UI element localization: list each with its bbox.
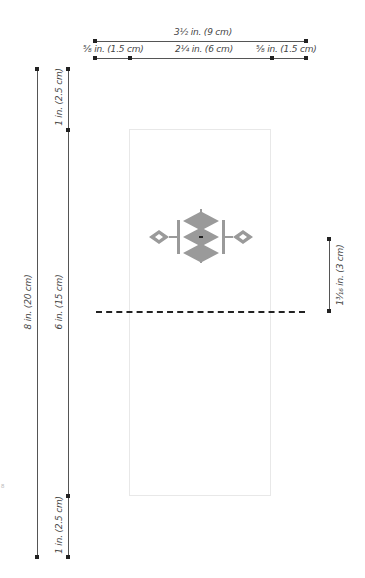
bottom-section-label: 1 in. (2.5 cm) <box>54 495 64 555</box>
motif-offset-line <box>329 239 330 311</box>
total-height-top-point <box>35 67 39 71</box>
total-height-bottom-point <box>35 555 39 559</box>
height-point-2 <box>66 128 70 132</box>
left-margin-label: ⅝ in. (1.5 cm) <box>83 44 144 54</box>
segment-point-3 <box>270 56 274 60</box>
segment-point-2 <box>128 56 132 60</box>
middle-section-label: 6 in. (15 cm) <box>54 272 64 332</box>
segmented-height-line <box>68 69 69 557</box>
height-point-3 <box>66 494 70 498</box>
motif-offset-bottom-point <box>327 309 331 313</box>
segmented-width-line <box>95 58 306 59</box>
total-width-start-point <box>93 39 97 43</box>
total-width-end-point <box>304 39 308 43</box>
fold-line <box>96 311 305 313</box>
total-width-line <box>95 41 306 42</box>
colorwork-motif-icon <box>147 208 255 264</box>
right-margin-label: ⅝ in. (1.5 cm) <box>256 44 317 54</box>
segment-point-4 <box>304 56 308 60</box>
motif-offset-label: 1³⁄₁₆ in. (3 cm) <box>335 240 345 310</box>
segment-point-1 <box>93 56 97 60</box>
total-height-label: 8 in. (20 cm) <box>23 272 33 332</box>
stray-mark: 8 <box>1 483 4 489</box>
center-width-label: 2¼ in. (6 cm) <box>175 44 233 54</box>
total-width-label: 3½ in. (9 cm) <box>174 27 232 37</box>
height-point-1 <box>66 67 70 71</box>
top-section-label: 1 in. (2.5 cm) <box>54 67 64 127</box>
motif-offset-top-point <box>327 237 331 241</box>
total-height-line <box>37 69 38 557</box>
height-point-4 <box>66 555 70 559</box>
